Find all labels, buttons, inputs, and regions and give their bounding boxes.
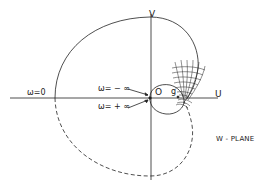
point-g-label: g — [171, 88, 176, 96]
u-axis-label: U — [215, 90, 222, 99]
mapped-grid — [172, 60, 205, 108]
origin-label: O — [155, 88, 162, 97]
omega-zero-label: ω=0 — [27, 89, 46, 97]
v-axis-label: V — [149, 10, 155, 19]
plane-label: W - PLANE — [216, 136, 254, 143]
omega-plus-inf-label: ω= + ∞ — [98, 103, 130, 111]
omega-minus-inf-label: ω= − ∞ — [98, 85, 130, 93]
